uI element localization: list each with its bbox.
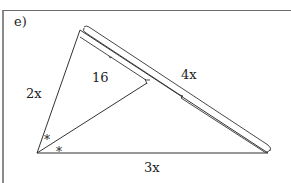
brace-4x: [83, 28, 270, 152]
label-side-left: 2x: [26, 86, 42, 101]
brace-4x-outer: [84, 26, 271, 151]
problem-label: e): [14, 14, 27, 29]
brace-16: [80, 37, 150, 80]
triangle-diagram: e) 2x 16 4x 3x * *: [0, 0, 291, 183]
label-side-bottom: 3x: [144, 160, 160, 175]
angle-bisector: [37, 83, 147, 153]
angle-mark-2: *: [56, 145, 62, 159]
label-segment-16: 16: [92, 70, 109, 85]
angle-mark-1: *: [44, 133, 50, 147]
label-side-right: 4x: [181, 67, 197, 82]
